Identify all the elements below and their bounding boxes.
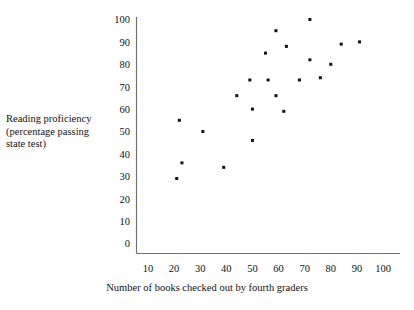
x-tick-label: 70 — [299, 263, 310, 274]
x-tick-labels: 102030405060708090100 — [143, 263, 391, 274]
y-tick-labels: 0102030405060708090100 — [114, 14, 130, 249]
y-tick-label: 30 — [120, 171, 131, 182]
x-tick-label: 80 — [326, 263, 337, 274]
data-point — [235, 94, 238, 97]
data-point — [285, 45, 288, 48]
data-point — [251, 108, 254, 111]
data-point — [180, 161, 183, 164]
x-tick-label: 10 — [143, 263, 154, 274]
data-point — [274, 29, 277, 32]
plot-canvas: 0102030405060708090100 10203040506070809… — [0, 0, 414, 310]
data-point — [319, 76, 322, 79]
x-tick-label: 20 — [169, 263, 180, 274]
y-tick-label: 10 — [120, 216, 131, 227]
y-tick-label: 40 — [120, 149, 131, 160]
data-points — [175, 18, 361, 180]
data-point — [308, 18, 311, 21]
data-point — [274, 94, 277, 97]
y-tick-label: 60 — [120, 104, 131, 115]
x-tick-label: 100 — [375, 263, 391, 274]
x-tick-label: 60 — [273, 263, 284, 274]
x-axis-label: Number of books checked out by fourth gr… — [0, 282, 414, 293]
y-tick-label: 0 — [125, 238, 130, 249]
data-point — [201, 130, 204, 133]
x-tick-label: 90 — [352, 263, 363, 274]
data-point — [340, 43, 343, 46]
y-tick-label: 80 — [120, 59, 131, 70]
data-point — [248, 78, 251, 81]
x-tick-label: 30 — [195, 263, 206, 274]
data-point — [282, 110, 285, 113]
data-point — [251, 139, 254, 142]
scatter-plot-figure: Reading proficiency (percentage passing … — [0, 0, 414, 310]
data-point — [175, 177, 178, 180]
data-point — [267, 78, 270, 81]
x-tick-label: 40 — [221, 263, 232, 274]
data-point — [264, 52, 267, 55]
data-point — [308, 58, 311, 61]
data-point — [222, 166, 225, 169]
y-tick-label: 50 — [120, 126, 131, 137]
y-tick-label: 100 — [114, 14, 130, 25]
y-tick-label: 20 — [120, 194, 131, 205]
data-point — [358, 40, 361, 43]
axes — [137, 17, 401, 254]
data-point — [298, 78, 301, 81]
data-point — [329, 63, 332, 66]
y-tick-label: 90 — [120, 37, 131, 48]
data-point — [178, 119, 181, 122]
y-tick-label: 70 — [120, 82, 131, 93]
x-tick-label: 50 — [247, 263, 258, 274]
